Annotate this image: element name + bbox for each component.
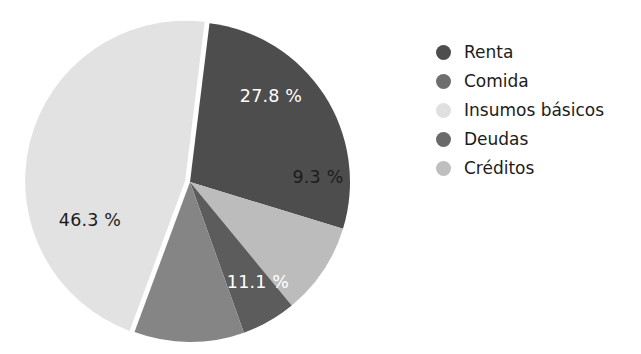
legend-dot-icon: [436, 103, 451, 118]
legend-item-label: Insumos básicos: [464, 102, 604, 119]
pie-slice-value-label: 27.8 %: [240, 86, 302, 106]
legend-item-insumos-basicos[interactable]: Insumos básicos: [436, 96, 641, 125]
legend-dot-icon: [436, 161, 451, 176]
pie-chart-area: 27.8 %9.3 %11.1 %46.3 %: [0, 0, 400, 354]
legend-item-deudas[interactable]: Deudas: [436, 125, 641, 154]
legend-dot-icon: [436, 74, 451, 89]
pie-slice-value-label: 11.1 %: [227, 272, 289, 292]
pie-slice-value-label: 46.3 %: [59, 210, 121, 230]
pie-chart-svg: 27.8 %9.3 %11.1 %46.3 %: [0, 0, 400, 354]
legend-item-renta[interactable]: Renta: [436, 38, 641, 67]
legend-item-creditos[interactable]: Créditos: [436, 154, 641, 183]
pie-slice-value-label: 9.3 %: [292, 167, 343, 187]
chart-legend: Renta Comida Insumos básicos Deudas Créd…: [436, 38, 641, 183]
legend-item-comida[interactable]: Comida: [436, 67, 641, 96]
legend-dot-icon: [436, 45, 451, 60]
legend-item-label: Créditos: [464, 160, 534, 177]
pie-chart-figure: 27.8 %9.3 %11.1 %46.3 % Renta Comida Ins…: [0, 0, 641, 354]
legend-item-label: Deudas: [464, 131, 528, 148]
legend-item-label: Renta: [464, 44, 513, 61]
legend-item-label: Comida: [464, 73, 529, 90]
legend-dot-icon: [436, 132, 451, 147]
